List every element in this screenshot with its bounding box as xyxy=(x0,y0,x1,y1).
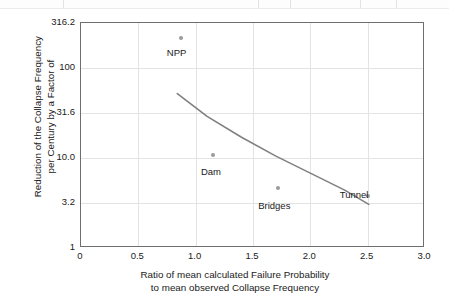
scan-artifact-strip xyxy=(0,0,449,9)
y-axis-title: Reduction of the Collapse Frequency per … xyxy=(32,2,57,232)
x-axis-tick-label: 0.5 xyxy=(117,251,157,261)
x-axis-tick-label: 0 xyxy=(60,251,100,261)
plot-area: NPPDamBridgesTunnel xyxy=(80,22,424,247)
x-axis-tick-label: 1.5 xyxy=(232,251,272,261)
y-axis-title-line2: per Century by a Factor of xyxy=(45,60,56,174)
chart-figure: NPPDamBridgesTunnel 13.210.031.6100316.2… xyxy=(0,0,449,302)
x-axis-tick-label: 1.0 xyxy=(175,251,215,261)
x-axis-tick-label: 2.5 xyxy=(347,251,387,261)
data-point-marker xyxy=(211,153,215,157)
data-point-label: Bridges xyxy=(258,201,290,211)
data-point-label: NPP xyxy=(167,48,187,58)
y-axis-title-line1: Reduction of the Collapse Frequency xyxy=(32,36,43,197)
data-point-marker xyxy=(179,36,183,40)
x-axis-title-line1: Ratio of mean calculated Failure Probabi… xyxy=(141,269,330,280)
data-point-marker xyxy=(276,186,280,190)
x-axis-title: Ratio of mean calculated Failure Probabi… xyxy=(60,268,410,294)
data-point-label: Tunnel xyxy=(340,190,369,200)
x-axis-tick-label: 2.0 xyxy=(289,251,329,261)
x-axis-title-line2: to mean observed Collapse Frequency xyxy=(151,282,319,293)
trend-curve xyxy=(81,23,425,248)
x-axis-tick-label: 3.0 xyxy=(404,251,444,261)
data-point-label: Dam xyxy=(201,167,221,177)
